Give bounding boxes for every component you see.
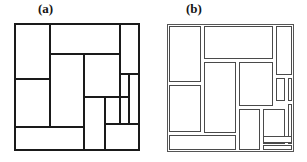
panel-a-block-12 [120, 97, 129, 124]
panel-b-label: (b) [186, 1, 202, 16]
panel-a-block-6 [15, 79, 50, 127]
panel-a-block-7 [120, 74, 129, 97]
panel-b-block-13 [263, 136, 291, 142]
panel-a-label: (a) [38, 1, 53, 16]
panel-a-block-5 [84, 54, 120, 97]
panel-b-block-6 [169, 85, 200, 131]
panel-a-block-3 [120, 24, 139, 74]
panel-a-block-2 [50, 24, 120, 54]
panel-b-block-7 [276, 78, 284, 100]
panel-a-block-13 [84, 97, 105, 150]
panel-b-block-1 [169, 26, 200, 81]
panel-a-packing-diagram [14, 23, 140, 151]
panel-b-block-2 [204, 26, 272, 58]
panel-b: (b) [153, 0, 306, 162]
panel-a: (a) [0, 0, 153, 162]
panel-b-block-4 [204, 62, 235, 132]
panel-a-block-8 [129, 74, 139, 124]
panel-b-packing-diagram [166, 23, 294, 152]
panel-b-block-3 [276, 26, 291, 74]
panel-a-block-4 [50, 54, 84, 127]
panel-b-block-12 [169, 135, 235, 149]
panel-b-block-14 [263, 145, 291, 149]
panel-a-block-10 [15, 127, 84, 150]
panel-b-block-9 [239, 109, 259, 149]
figure-rectangular-packings: (a) (b) [0, 0, 307, 162]
panel-b-block-8 [288, 78, 291, 100]
panel-b-block-5 [239, 62, 272, 105]
panel-a-block-1 [15, 24, 50, 79]
panel-a-block-11 [105, 124, 139, 150]
